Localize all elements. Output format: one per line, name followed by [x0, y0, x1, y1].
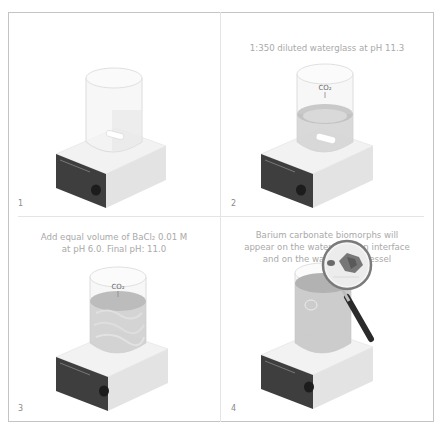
co2-label: CO₂	[111, 283, 124, 291]
knob-icon	[91, 185, 101, 196]
panel-number: 3	[18, 404, 23, 413]
co2-label: CO₂	[318, 84, 331, 92]
panel-step-3: Add equal volume of BaCl₂ 0.01 M at pH 6…	[8, 217, 220, 421]
panel-number: 1	[18, 199, 23, 208]
panel-number: 2	[231, 199, 236, 208]
stirrer-beaker-empty-illustration	[8, 12, 220, 216]
panel-number: 4	[231, 404, 236, 413]
knob-icon	[99, 386, 109, 397]
knob-icon	[304, 382, 314, 393]
knob-icon	[296, 185, 306, 196]
stirrer-beaker-mixed-illustration: CO₂	[8, 217, 220, 421]
stirrer-beaker-waterglass-illustration: CO₂	[221, 12, 433, 216]
figure-caption-clipped	[8, 425, 438, 432]
panel-step-1: 1	[8, 12, 220, 216]
panel-step-4: Barium carbonate biomorphs will appear o…	[221, 217, 433, 421]
stirrer-beaker-biomorphs-illustration	[221, 217, 433, 421]
panel-step-2: 1:350 diluted waterglass at pH 11.3 CO₂ …	[221, 12, 433, 216]
